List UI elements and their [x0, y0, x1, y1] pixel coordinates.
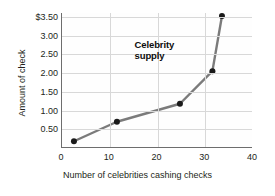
- x-axis-tick-label: 30: [189, 152, 219, 163]
- y-axis-tick-label: 2.50: [24, 49, 58, 59]
- y-axis-tick-label: 1.00: [24, 106, 58, 116]
- vertical-gridline: [205, 13, 206, 147]
- vertical-gridline: [158, 13, 159, 147]
- y-axis-tick-labels: $3.503.002.502.001.501.000.50: [24, 12, 58, 152]
- y-axis-tick-label: $3.50: [24, 12, 58, 22]
- y-axis-tick-label: 3.00: [24, 31, 58, 41]
- y-axis-tick-label: 2.00: [24, 68, 58, 78]
- x-axis-tick-label: 10: [94, 152, 124, 163]
- y-axis-tick-label: 0.50: [24, 124, 58, 134]
- x-axis-tick-label: 20: [142, 152, 172, 163]
- data-point-marker: [177, 101, 183, 107]
- x-axis-tick-label: 40: [237, 152, 267, 163]
- x-axis-tick-label: 0: [46, 152, 76, 163]
- annotation-celebrity-supply: Celebrity supply: [135, 39, 175, 61]
- x-axis-title: Number of celebrities cashing checks: [0, 169, 275, 181]
- data-point-marker: [71, 138, 77, 144]
- plot-area: [61, 13, 252, 148]
- chart-figure: Amount of check $3.503.002.502.001.501.0…: [0, 0, 275, 196]
- x-axis-tick-labels: 010203040: [61, 152, 252, 164]
- vertical-gridline: [110, 13, 111, 147]
- y-axis-tick-label: 1.50: [24, 87, 58, 97]
- data-point-marker: [114, 119, 120, 125]
